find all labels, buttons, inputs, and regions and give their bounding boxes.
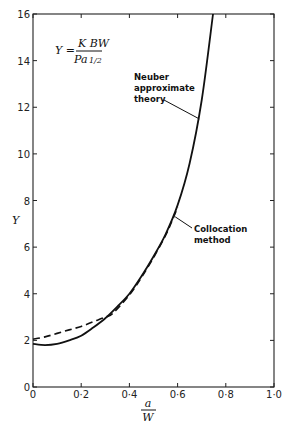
x-tick-label: 0 xyxy=(30,389,36,400)
plot-frame xyxy=(33,14,274,387)
collocation-curve xyxy=(33,207,178,339)
y-tick-label: 6 xyxy=(24,242,30,253)
collocation-label: method xyxy=(194,235,231,245)
x-tick-label: 0·8 xyxy=(218,389,234,400)
axis-ticks: 00·20·40·60·81·00246810121416 xyxy=(17,9,282,400)
chart: 00·20·40·60·81·00246810121416 Neuberappr… xyxy=(0,0,288,426)
neuber-label: Neuber xyxy=(134,72,170,82)
formula-denominator: Pa xyxy=(73,53,87,66)
y-tick-label: 16 xyxy=(17,9,30,20)
neuber-curve xyxy=(33,14,213,345)
neuber-arrow xyxy=(164,100,199,119)
formula-numerator: K BW xyxy=(77,37,111,50)
y-axis-label: Y xyxy=(12,214,21,227)
plot-border xyxy=(33,14,274,387)
x-label-numerator: a xyxy=(145,397,152,410)
x-tick-label: 1·0 xyxy=(266,389,282,400)
formula-exponent: 1/2 xyxy=(89,56,102,65)
neuber-label: theory xyxy=(134,94,166,104)
collocation-arrow xyxy=(175,217,192,228)
x-tick-label: 0·2 xyxy=(73,389,89,400)
x-tick-label: 0·6 xyxy=(170,389,186,400)
y-tick-label: 0 xyxy=(24,382,30,393)
x-tick-label: 0·4 xyxy=(121,389,137,400)
x-axis-label: a W xyxy=(141,397,156,424)
data-series xyxy=(33,14,213,345)
y-tick-label: 8 xyxy=(24,196,30,207)
collocation-label: Collocation xyxy=(194,224,247,234)
y-tick-label: 2 xyxy=(24,335,30,346)
y-tick-label: 12 xyxy=(17,102,30,113)
y-tick-label: 10 xyxy=(17,149,30,160)
y-tick-label: 4 xyxy=(24,289,30,300)
formula-lhs: Y = xyxy=(55,44,75,57)
formula: Y = K BW Pa 1/2 xyxy=(55,37,111,66)
y-tick-label: 14 xyxy=(17,56,30,67)
neuber-label: approximate xyxy=(134,83,195,93)
x-label-denominator: W xyxy=(142,411,155,424)
